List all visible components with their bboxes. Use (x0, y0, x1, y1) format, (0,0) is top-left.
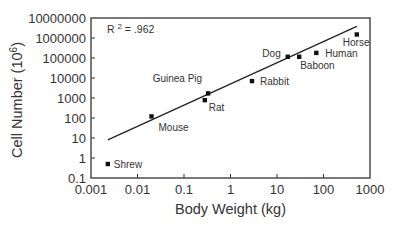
data-point-marker (203, 98, 207, 102)
regression-line (108, 26, 357, 140)
y-tick-label: 1 (79, 151, 86, 166)
x-tick-label: 1 (227, 182, 234, 197)
x-tick-label: 0.1 (175, 182, 193, 197)
data-point-marker (314, 51, 318, 55)
y-tick-label: 100 (64, 111, 86, 126)
x-axis-title: Body Weight (kg) (175, 201, 286, 217)
y-axis-title: Cell Number (106) (8, 42, 25, 158)
y-tick-label: 0.1 (68, 171, 86, 186)
plot-area: 0.0010.010.111010010000.1110100100010000… (8, 11, 384, 218)
data-point-label: Rabbit (260, 76, 289, 87)
data-point-marker (250, 79, 254, 83)
y-tick-label: 100000 (43, 51, 86, 66)
data-point-marker (149, 114, 153, 118)
data-point-label: Horse (343, 37, 370, 48)
x-tick-label: 10 (270, 182, 284, 197)
y-tick-label: 10000 (50, 71, 86, 86)
y-tick-label: 10000000 (28, 11, 86, 26)
data-point-label: Dog (262, 48, 280, 59)
data-point-label: Human (325, 48, 357, 59)
x-tick-label: 100 (313, 182, 335, 197)
y-tick-label: 10 (72, 131, 86, 146)
x-tick-label: 0.01 (125, 182, 150, 197)
data-point-label: Baboon (300, 60, 334, 71)
data-point-marker (106, 162, 110, 166)
y-tick-label: 1000 (57, 91, 86, 106)
data-point-marker (355, 32, 359, 36)
data-point-marker (297, 55, 301, 59)
y-tick-label: 1000000 (35, 31, 86, 46)
data-point-label: Shrew (114, 159, 143, 170)
data-point-label: Guinea Pig (153, 73, 202, 84)
data-point-label: Rat (209, 102, 225, 113)
scatter-chart: 0.0010.010.111010010000.1110100100010000… (0, 0, 397, 226)
data-point-marker (206, 91, 210, 95)
data-point-label: Mouse (158, 122, 188, 133)
data-point-marker (286, 55, 290, 59)
x-tick-label: 1000 (356, 182, 385, 197)
plot-frame (91, 18, 370, 178)
r-squared-annotation: R 2 = .962 (107, 22, 155, 35)
